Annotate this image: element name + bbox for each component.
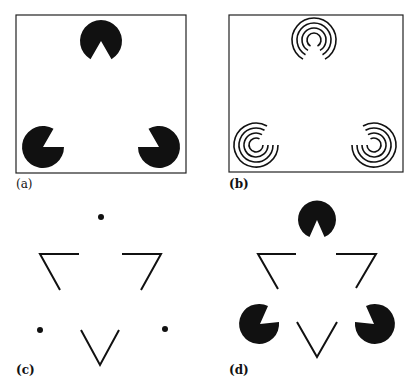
corner-d-left <box>258 254 296 289</box>
dot-top <box>98 214 104 220</box>
dot-bottom-left <box>37 327 43 333</box>
panel-d-label: (d) <box>229 363 249 377</box>
corner-d-right <box>336 254 376 288</box>
corner-right <box>122 254 161 290</box>
kanizsa-figure <box>0 0 416 387</box>
pacman-d-bottom-right <box>355 304 395 344</box>
corner-left <box>40 254 79 290</box>
pacman-bottom-right <box>138 126 180 168</box>
dot-bottom-right <box>162 326 168 332</box>
concentric-arcs-top <box>292 18 336 59</box>
pacman-bottom-left <box>22 126 64 168</box>
pacman-d-bottom-left <box>239 304 279 344</box>
concentric-arcs-bottom-left <box>234 123 278 167</box>
corner-d-bottom <box>297 322 337 357</box>
panel-b <box>229 15 403 172</box>
panel-a-label: (a) <box>16 177 33 191</box>
panel-c-label: (c) <box>16 363 35 377</box>
corner-bottom <box>81 330 119 365</box>
panel-a <box>16 15 186 173</box>
panel-c <box>37 214 168 365</box>
panel-b-label: (b) <box>229 177 249 191</box>
panel-b-frame <box>229 15 403 172</box>
panel-d <box>239 201 395 357</box>
pacman-top <box>80 20 122 59</box>
concentric-arcs-bottom-right <box>352 123 396 167</box>
pacman-d-top <box>298 201 336 237</box>
